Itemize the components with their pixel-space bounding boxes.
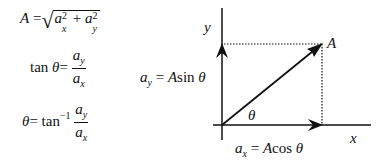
y-axis-label: y xyxy=(204,20,211,35)
sin-fn: sin xyxy=(177,69,198,85)
vector-a-label: A xyxy=(327,36,336,51)
cos-fn: cos xyxy=(272,140,296,156)
vector-a-line xyxy=(222,47,318,125)
magnitude-a: A xyxy=(168,69,177,85)
ay-base: a xyxy=(140,69,148,85)
ay-component-label: ay = Asin θ xyxy=(140,70,206,88)
theta: θ xyxy=(296,140,303,156)
x-axis-label: x xyxy=(350,131,357,146)
ax-component-label: ax = Acos θ xyxy=(235,141,303,159)
theta: θ xyxy=(198,69,205,85)
magnitude-a: A xyxy=(263,140,272,156)
ax-base: a xyxy=(235,140,243,156)
equals-sign: = xyxy=(152,69,168,85)
equals-sign: = xyxy=(247,140,263,156)
theta-label: θ xyxy=(248,108,255,123)
